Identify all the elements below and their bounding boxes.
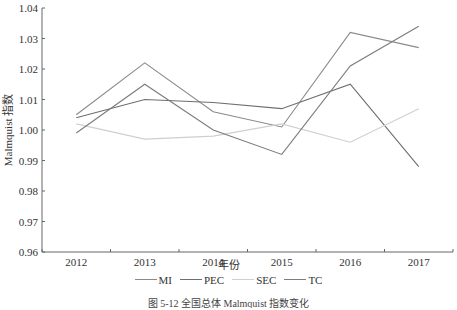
legend-label: PEC	[204, 274, 224, 286]
legend-label: MI	[159, 274, 172, 286]
legend-item-pec: PEC	[180, 274, 224, 286]
series-lines	[76, 26, 419, 166]
y-tick-label: 1.03	[19, 33, 39, 45]
figure-caption: 图 5-12 全国总体 Malmquist 指数变化	[0, 295, 457, 310]
series-line-mi	[76, 32, 419, 127]
series-line-sec	[76, 109, 419, 143]
legend-swatch	[135, 279, 157, 280]
y-axis-ticks: 0.960.970.980.991.001.011.021.031.04	[19, 2, 45, 258]
legend-item-sec: SEC	[232, 274, 276, 286]
legend-swatch	[284, 279, 306, 280]
legend-swatch	[232, 279, 254, 280]
legend-label: TC	[308, 274, 322, 286]
legend: MIPECSECTC	[0, 270, 457, 286]
y-tick-label: 0.99	[19, 155, 39, 167]
y-tick-label: 0.98	[19, 185, 39, 197]
y-axis-title: Malmquist 指数	[1, 94, 14, 166]
y-tick-label: 1.04	[19, 2, 39, 14]
legend-label: SEC	[256, 274, 276, 286]
y-tick-label: 1.00	[19, 124, 39, 136]
y-tick-label: 1.01	[19, 94, 38, 106]
legend-item-mi: MI	[135, 274, 172, 286]
legend-item-tc: TC	[284, 274, 322, 286]
y-tick-label: 0.97	[19, 216, 39, 228]
y-tick-label: 1.02	[19, 63, 38, 75]
legend-swatch	[180, 279, 202, 280]
